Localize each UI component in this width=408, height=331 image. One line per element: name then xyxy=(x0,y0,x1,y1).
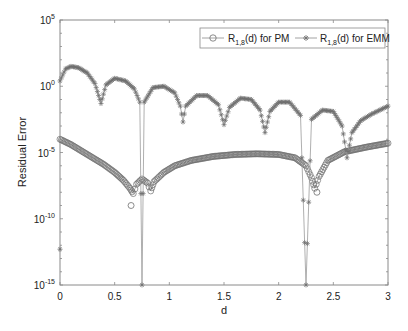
residual-error-chart: 00.511.522.5310510010-510-1010-15 d Resi… xyxy=(0,0,408,331)
x-tick-label: 0.5 xyxy=(108,291,122,302)
series-pm xyxy=(57,136,391,208)
y-tick-label: 100 xyxy=(40,79,55,92)
legend: R1,8(d) for PM R1,8(d) for EMM xyxy=(200,28,390,48)
y-axis-label: Residual Error xyxy=(16,117,28,188)
y-tick-label: 10-10 xyxy=(34,212,55,225)
x-axis-label: d xyxy=(221,304,227,316)
y-tick-label: 10-15 xyxy=(34,278,55,291)
x-tick-label: 0 xyxy=(57,291,63,302)
y-tick-label: 10-5 xyxy=(38,146,55,159)
series-emm xyxy=(58,64,391,288)
series-layer xyxy=(57,64,391,288)
x-tick-label: 2 xyxy=(276,291,282,302)
x-tick-label: 1.5 xyxy=(217,291,231,302)
y-tick-label: 105 xyxy=(40,13,55,26)
x-tick-label: 1 xyxy=(167,291,173,302)
x-tick-label: 3 xyxy=(385,291,391,302)
x-tick-label: 2.5 xyxy=(326,291,340,302)
